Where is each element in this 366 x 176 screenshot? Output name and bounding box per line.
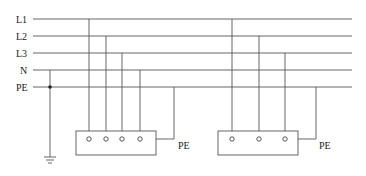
terminal-icon: [283, 137, 287, 141]
terminal-icon: [257, 137, 261, 141]
bus-label-pe: PE: [16, 82, 28, 93]
junction-dot: [48, 85, 52, 89]
terminal-icon: [138, 137, 142, 141]
tns-diagram: L1 L2 L3 N PE PE PE: [0, 0, 366, 176]
bus-label-l2: L2: [16, 31, 27, 42]
load-1-enclosure: [76, 131, 156, 155]
earth-ground-icon: [44, 157, 56, 163]
bus-label-l1: L1: [16, 14, 27, 25]
load-2-pe-label: PE: [319, 140, 331, 151]
bus-label-n: N: [20, 65, 27, 76]
terminal-icon: [230, 137, 234, 141]
bus-label-l3: L3: [16, 48, 27, 59]
load-1-pe-conductor: [156, 87, 174, 139]
terminal-icon: [104, 137, 108, 141]
terminal-icon: [87, 137, 91, 141]
terminal-icon: [120, 137, 124, 141]
load-2-pe-conductor: [298, 87, 316, 139]
load-1-pe-label: PE: [178, 140, 190, 151]
load-2-enclosure: [218, 131, 298, 155]
